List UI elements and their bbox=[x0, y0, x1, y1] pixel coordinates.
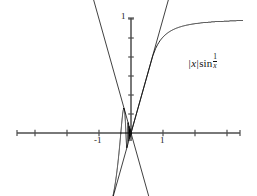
fraction-denominator: x bbox=[213, 61, 217, 70]
x-tick-label-minus-1: -1 bbox=[94, 136, 102, 145]
fraction-numerator: 1 bbox=[213, 53, 217, 61]
y-tick-label-1: 1 bbox=[121, 12, 126, 21]
plot-area bbox=[0, 0, 257, 196]
figure-canvas: -1 1 1 |x|sin1x bbox=[0, 0, 257, 196]
formula-annotation: |x|sin1x bbox=[188, 53, 217, 70]
x-tick-label-1: 1 bbox=[160, 136, 165, 145]
formula-function: sin bbox=[199, 57, 212, 69]
plot-background bbox=[0, 0, 257, 196]
formula-fraction: 1x bbox=[213, 53, 217, 70]
